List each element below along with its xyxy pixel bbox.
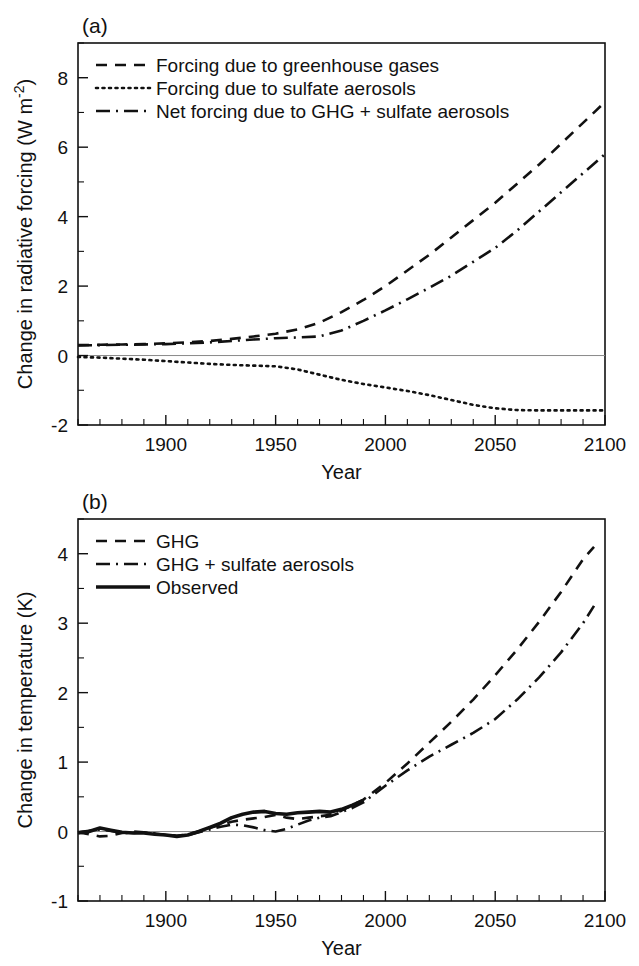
x-tick-label: 2100 (584, 910, 626, 931)
legend-label: Observed (156, 577, 238, 598)
legend-label: Forcing due to sulfate aerosols (156, 78, 416, 99)
legend-label: GHG (156, 531, 199, 552)
y-axis-title: Change in temperature (K) (14, 592, 36, 829)
climate-forcing-temperature-figure: (a)19001950200020502100-202468YearChange… (0, 0, 639, 966)
x-tick-label: 1950 (254, 910, 296, 931)
x-tick-label: 1900 (145, 910, 187, 931)
x-tick-label: 2050 (474, 434, 516, 455)
series-solid (78, 800, 363, 836)
x-tick-label: 1900 (145, 434, 187, 455)
legend-label: Forcing due to greenhouse gases (156, 55, 439, 76)
panel-label: (a) (82, 14, 108, 37)
x-tick-label: 2050 (474, 910, 516, 931)
y-axis-title: Change in radiative forcing (W m-2) (11, 79, 36, 389)
panel-a-svg: (a)19001950200020502100-202468YearChange… (0, 0, 639, 483)
y-tick-label: 3 (57, 613, 68, 634)
series-dashdot (78, 606, 594, 836)
panel-b-temperature: (b)19001950200020502100-101234YearChange… (0, 478, 639, 966)
y-tick-label: 4 (57, 207, 68, 228)
series-dotted (78, 357, 605, 410)
y-tick-label: 2 (57, 276, 68, 297)
panel-a-radiative-forcing: (a)19001950200020502100-202468YearChange… (0, 0, 639, 483)
y-tick-label: 6 (57, 137, 68, 158)
legend-label: Net forcing due to GHG + sulfate aerosol… (156, 101, 509, 122)
y-tick-label: 0 (57, 822, 68, 843)
legend-label: GHG + sulfate aerosols (156, 554, 354, 575)
x-tick-label: 1950 (254, 434, 296, 455)
panel-b-svg: (b)19001950200020502100-101234YearChange… (0, 478, 639, 966)
x-tick-label: 2000 (364, 910, 406, 931)
y-tick-label: 8 (57, 68, 68, 89)
panel-label: (b) (82, 490, 108, 513)
y-tick-label: 4 (57, 544, 68, 565)
x-axis-title: Year (321, 937, 362, 959)
series-dashdot (78, 154, 605, 345)
y-tick-label: 2 (57, 683, 68, 704)
y-tick-label: -1 (51, 891, 68, 912)
y-tick-label: -2 (51, 415, 68, 436)
y-tick-label: 0 (57, 346, 68, 367)
y-tick-label: 1 (57, 752, 68, 773)
x-tick-label: 2000 (364, 434, 406, 455)
x-tick-label: 2100 (584, 434, 626, 455)
